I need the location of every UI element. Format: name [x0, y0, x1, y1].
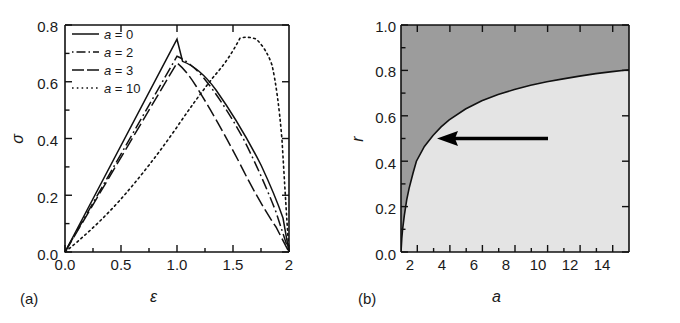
figure: (a) ε σ 0.0 0.2 0.4 0.6 0.8 0.0 0.5 1.0 …: [0, 0, 680, 323]
panel-b-plot: [340, 0, 680, 323]
panel-a-ticks: [65, 25, 289, 252]
panel-a: (a) ε σ 0.0 0.2 0.4 0.6 0.8 0.0 0.5 1.0 …: [0, 0, 340, 323]
legend-swatches: [72, 34, 99, 88]
panel-b: (b) a r 0.0 0.2 0.4 0.6 0.8 1.0 2 4 6 8 …: [340, 0, 680, 323]
curve-a-0: [65, 39, 289, 252]
curve-a-3: [65, 63, 289, 252]
panel-a-axes: [65, 25, 289, 252]
panel-a-plot: [0, 0, 340, 323]
